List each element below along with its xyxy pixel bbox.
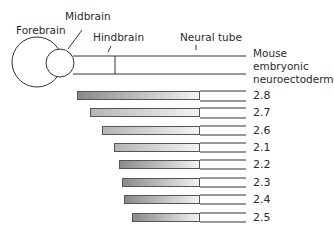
midbrain-circle bbox=[46, 49, 74, 77]
bar-value-label: 2.4 bbox=[253, 194, 271, 206]
neural-tube-label: Neural tube bbox=[180, 31, 242, 43]
expression-bar bbox=[124, 195, 200, 204]
midbrain-label: Midbrain bbox=[65, 10, 111, 22]
forebrain-label: Forebrain bbox=[16, 24, 66, 36]
tissue-label-line3: neuroectoderm bbox=[253, 73, 334, 85]
midbrain-leader bbox=[68, 30, 82, 49]
hindbrain-label: Hindbrain bbox=[93, 31, 144, 43]
bar-value-label: 2.7 bbox=[253, 107, 271, 119]
hindbrain-leader bbox=[108, 46, 111, 52]
tissue-label-line2: embryonic bbox=[253, 60, 309, 72]
bar-value-label: 2.8 bbox=[253, 90, 271, 102]
expression-bar bbox=[90, 108, 200, 117]
bar-value-label: 2.6 bbox=[253, 125, 271, 137]
expression-bar bbox=[122, 178, 200, 187]
bar-value-label: 2.1 bbox=[253, 142, 271, 154]
bar-value-label: 2.2 bbox=[253, 159, 271, 171]
tissue-label-line1: Mouse bbox=[253, 47, 287, 59]
expression-bar bbox=[102, 126, 200, 135]
bar-value-label: 2.5 bbox=[253, 212, 271, 224]
expression-bar bbox=[132, 213, 200, 222]
expression-bar bbox=[77, 91, 200, 100]
expression-bar bbox=[119, 160, 200, 169]
expression-bar bbox=[114, 143, 200, 152]
bar-guides bbox=[200, 91, 246, 222]
bar-value-label: 2.3 bbox=[253, 177, 271, 189]
